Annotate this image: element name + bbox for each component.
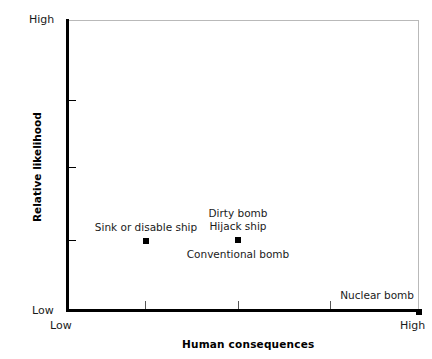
y-axis-tick <box>69 100 76 101</box>
y-axis-line <box>66 19 69 312</box>
point-label-nuclear-bomb: Nuclear bomb <box>340 290 414 302</box>
x-axis-high-label: High <box>400 319 425 332</box>
data-point-nuclear-bomb[interactable] <box>416 309 422 315</box>
point-label-hijack-ship: Hijack ship <box>209 221 266 233</box>
frame-right-border <box>418 20 419 312</box>
x-axis-low-label: Low <box>50 319 72 332</box>
point-label-conventional-bomb: Conventional bomb <box>187 249 290 261</box>
x-axis-line <box>66 309 419 312</box>
y-axis-tick <box>69 240 76 241</box>
x-axis-tick <box>238 301 239 309</box>
point-label-dirty-bomb: Dirty bomb <box>209 208 268 220</box>
x-axis-tick <box>330 301 331 309</box>
point-label-sink-or-disable-ship: Sink or disable ship <box>95 222 197 234</box>
y-axis-high-label: High <box>29 13 54 26</box>
data-point-dirty-bomb-hijack-ship[interactable] <box>235 237 241 243</box>
data-point-sink-or-disable-ship[interactable] <box>143 238 149 244</box>
frame-top-border <box>66 20 419 21</box>
y-axis-title: Relative likelihood <box>31 112 43 222</box>
x-axis-title: Human consequences <box>182 338 315 350</box>
y-axis-low-label: Low <box>32 304 54 317</box>
plot-area <box>66 20 419 312</box>
scatter-chart: Relative likelihood High Low Low High Hu… <box>0 0 432 359</box>
x-axis-tick <box>145 301 146 309</box>
y-axis-tick <box>69 167 76 168</box>
